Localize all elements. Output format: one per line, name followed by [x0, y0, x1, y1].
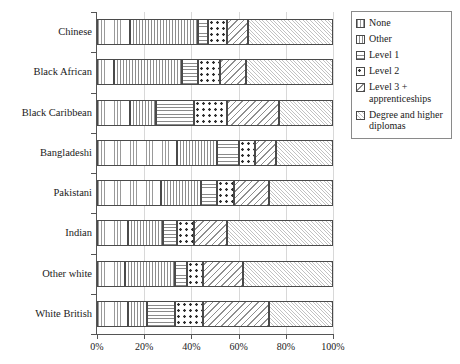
- bar-segment: [187, 261, 204, 287]
- bar-segment: [220, 59, 246, 85]
- bar-row: [97, 19, 333, 45]
- bar-segment: [128, 220, 163, 246]
- bar-row: [97, 140, 333, 166]
- x-axis-tick-label: 80%: [277, 341, 295, 353]
- bar-segment: [175, 261, 187, 287]
- legend-item[interactable]: Level 3 + apprenticeships: [356, 81, 447, 104]
- bar-segment: [198, 19, 207, 45]
- legend-item[interactable]: Level 1: [356, 49, 447, 61]
- bar-segment: [163, 220, 177, 246]
- x-axis-tick: [144, 334, 145, 339]
- legend-swatch-icon: [356, 51, 365, 60]
- category-label: Black African: [33, 66, 92, 78]
- bar-segment: [97, 100, 130, 126]
- x-axis-tick-label: 60%: [229, 341, 247, 353]
- stacked-bar-chart: NoneOtherLevel 1Level 2Level 3 + apprent…: [0, 0, 460, 364]
- bar-segment: [227, 220, 333, 246]
- bar-row: [97, 59, 333, 85]
- bar-segment: [97, 59, 114, 85]
- category-label: Bangladeshi: [40, 147, 92, 159]
- plot-area: [97, 12, 333, 334]
- bar-segment: [128, 301, 147, 327]
- x-axis-tick-label: 100%: [321, 341, 344, 353]
- bar-row: [97, 301, 333, 327]
- x-axis-tick: [239, 334, 240, 339]
- bar-segment: [227, 19, 248, 45]
- bar-segment: [243, 261, 333, 287]
- bar-segment: [198, 59, 219, 85]
- x-axis-tick-label: 20%: [135, 341, 153, 353]
- bar-segment: [97, 261, 125, 287]
- bar-segment: [227, 100, 279, 126]
- category-label: White British: [35, 308, 92, 320]
- gridline: [333, 12, 334, 334]
- legend-item-label: Level 1: [369, 49, 399, 61]
- legend-item[interactable]: Degree and higher diplomas: [356, 109, 447, 132]
- bar-segment: [203, 301, 269, 327]
- bar-segment: [161, 180, 201, 206]
- bar-segment: [203, 261, 243, 287]
- x-axis-tick: [191, 334, 192, 339]
- bar-segment: [276, 140, 333, 166]
- bar-segment: [239, 140, 256, 166]
- y-axis-tick: [91, 294, 97, 295]
- bar-segment: [194, 220, 227, 246]
- category-label: Other white: [42, 268, 92, 280]
- y-axis-tick: [91, 254, 97, 255]
- legend-item-label: Level 2: [369, 65, 399, 77]
- chart-legend: NoneOtherLevel 1Level 2Level 3 + apprent…: [351, 11, 452, 139]
- bar-segment: [156, 100, 194, 126]
- bar-segment: [177, 140, 217, 166]
- bar-segment: [97, 301, 128, 327]
- legend-item[interactable]: Other: [356, 33, 447, 45]
- bar-segment: [182, 59, 199, 85]
- bar-segment: [246, 59, 333, 85]
- bar-segment: [97, 220, 128, 246]
- x-axis-tick-label: 0%: [90, 341, 103, 353]
- bar-segment: [269, 180, 333, 206]
- bar-segment: [114, 59, 182, 85]
- bar-segment: [234, 180, 269, 206]
- y-axis-tick: [91, 173, 97, 174]
- y-axis-tick: [91, 213, 97, 214]
- bar-row: [97, 100, 333, 126]
- bar-row: [97, 180, 333, 206]
- bar-segment: [125, 261, 175, 287]
- bar-segment: [97, 19, 130, 45]
- x-axis-tick-label: 40%: [182, 341, 200, 353]
- bar-segment: [248, 19, 333, 45]
- bar-segment: [201, 180, 218, 206]
- category-label: Pakistani: [54, 187, 93, 199]
- bar-segment: [147, 301, 175, 327]
- legend-item[interactable]: Level 2: [356, 65, 447, 77]
- x-axis-tick: [333, 334, 334, 339]
- bar-segment: [177, 220, 194, 246]
- bar-row: [97, 220, 333, 246]
- bar-segment: [130, 100, 156, 126]
- legend-swatch-icon: [356, 83, 365, 92]
- bar-segment: [208, 19, 227, 45]
- x-axis-line: [96, 334, 334, 335]
- category-label: Chinese: [58, 26, 92, 38]
- legend-item[interactable]: None: [356, 17, 447, 29]
- legend-item-label: Level 3 + apprenticeships: [369, 81, 447, 104]
- legend-swatch-icon: [356, 35, 365, 44]
- y-axis-tick: [91, 334, 97, 335]
- bar-segment: [130, 19, 198, 45]
- bar-segment: [175, 301, 203, 327]
- y-axis-tick: [91, 52, 97, 53]
- bar-segment: [97, 140, 177, 166]
- legend-swatch-icon: [356, 19, 365, 28]
- bar-segment: [97, 180, 161, 206]
- bar-row: [97, 261, 333, 287]
- category-label: Indian: [65, 227, 92, 239]
- legend-item-label: Other: [369, 33, 392, 45]
- bar-segment: [217, 180, 234, 206]
- category-label: Black Caribbean: [22, 107, 92, 119]
- x-axis-tick: [286, 334, 287, 339]
- legend-item-label: None: [369, 17, 391, 29]
- bar-segment: [279, 100, 333, 126]
- x-axis-tick: [97, 334, 98, 339]
- bar-segment: [269, 301, 333, 327]
- legend-item-label: Degree and higher diplomas: [369, 109, 447, 132]
